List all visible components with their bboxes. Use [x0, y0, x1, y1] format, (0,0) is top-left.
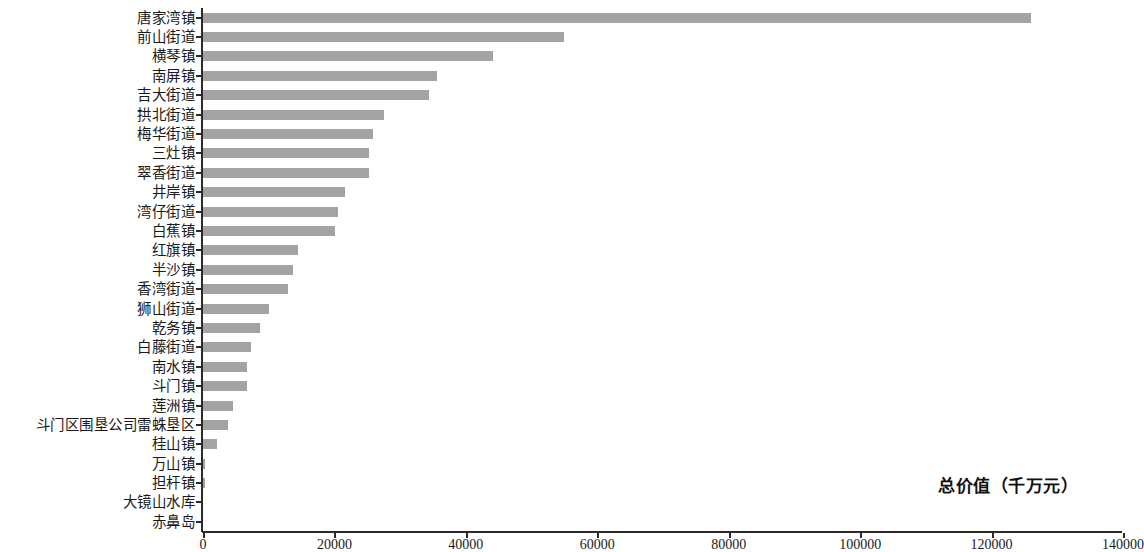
- x-axis-title: 总价值（千万元）: [938, 472, 1078, 497]
- chart-row: 三灶镇: [0, 144, 1143, 163]
- chart-row: 乾务镇: [0, 318, 1143, 337]
- chart-row: 白蕉镇: [0, 221, 1143, 240]
- y-axis-tick: [196, 230, 202, 232]
- category-label: 拱北街道: [137, 107, 195, 122]
- chart-row: 斗门区围垦公司雷蛛垦区: [0, 415, 1143, 434]
- x-tick-label: 140000: [1102, 537, 1144, 552]
- bar: [203, 245, 298, 255]
- category-label: 吉大街道: [137, 88, 195, 103]
- y-axis-tick: [196, 114, 202, 116]
- chart-row: 斗门镇: [0, 376, 1143, 395]
- x-tick-label: 40000: [448, 537, 483, 552]
- x-tick-label: 0: [200, 537, 207, 552]
- bar: [203, 342, 251, 352]
- category-label: 万山镇: [152, 456, 196, 471]
- category-label: 赤鼻岛: [152, 515, 196, 530]
- y-axis-tick: [196, 366, 202, 368]
- y-axis-tick: [196, 288, 202, 290]
- y-axis-tick: [196, 269, 202, 271]
- x-tick-label: 60000: [580, 537, 615, 552]
- bar: [203, 71, 437, 81]
- category-label: 莲洲镇: [152, 398, 196, 413]
- chart-row: 半沙镇: [0, 260, 1143, 279]
- bar: [203, 110, 384, 120]
- bar: [203, 362, 247, 372]
- y-axis-tick: [196, 17, 202, 19]
- y-axis-tick: [196, 327, 202, 329]
- x-tick-label: 100000: [839, 537, 881, 552]
- chart-row: 梅华街道: [0, 124, 1143, 143]
- category-label: 白蕉镇: [152, 224, 196, 239]
- category-label: 梅华街道: [137, 127, 195, 142]
- bar: [203, 168, 369, 178]
- y-axis-tick: [196, 75, 202, 77]
- bar: [203, 148, 369, 158]
- category-label: 湾仔街道: [137, 204, 195, 219]
- category-label: 狮山街道: [137, 301, 195, 316]
- y-axis-tick: [196, 385, 202, 387]
- category-label: 大镜山水库: [123, 495, 196, 510]
- bar: [203, 207, 338, 217]
- chart-row: 莲洲镇: [0, 396, 1143, 415]
- category-label: 前山街道: [137, 30, 195, 45]
- chart-row: 吉大街道: [0, 86, 1143, 105]
- y-axis-tick: [196, 94, 202, 96]
- category-label: 横琴镇: [152, 49, 196, 64]
- category-label: 半沙镇: [152, 263, 196, 278]
- bar: [203, 323, 260, 333]
- y-axis-tick: [196, 152, 202, 154]
- bar: [203, 459, 205, 469]
- category-label: 斗门区围垦公司雷蛛垦区: [36, 418, 196, 433]
- x-tick-label: 120000: [971, 537, 1013, 552]
- chart-rows: 唐家湾镇前山街道横琴镇南屏镇吉大街道拱北街道梅华街道三灶镇翠香街道井岸镇湾仔街道…: [0, 8, 1143, 532]
- y-axis-tick: [196, 172, 202, 174]
- bar: [203, 187, 345, 197]
- bar: [203, 401, 233, 411]
- y-axis-tick: [196, 133, 202, 135]
- bar: [203, 32, 564, 42]
- chart-row: 赤鼻岛: [0, 512, 1143, 531]
- y-axis-tick: [196, 521, 202, 523]
- bar: [203, 420, 228, 430]
- chart-row: 白藤街道: [0, 338, 1143, 357]
- chart-row: 湾仔街道: [0, 202, 1143, 221]
- chart-row: 横琴镇: [0, 47, 1143, 66]
- x-tick-label: 20000: [317, 537, 352, 552]
- chart-row: 桂山镇: [0, 435, 1143, 454]
- bar: [203, 51, 493, 61]
- y-axis-tick: [196, 482, 202, 484]
- category-label: 南水镇: [152, 359, 196, 374]
- chart-row: 前山街道: [0, 27, 1143, 46]
- chart-row: 香湾街道: [0, 279, 1143, 298]
- x-tick-label: 80000: [711, 537, 746, 552]
- category-label: 白藤街道: [137, 340, 195, 355]
- y-axis-tick: [196, 191, 202, 193]
- y-axis-tick: [196, 249, 202, 251]
- category-label: 唐家湾镇: [137, 10, 195, 25]
- x-axis-ticks: 020000400006000080000100000120000140000: [0, 533, 1143, 552]
- bar: [203, 13, 1031, 23]
- y-axis-tick: [196, 55, 202, 57]
- chart-row: 红旗镇: [0, 241, 1143, 260]
- y-axis-tick: [196, 211, 202, 213]
- y-axis-tick: [196, 36, 202, 38]
- category-label: 井岸镇: [152, 185, 196, 200]
- chart-row: 唐家湾镇: [0, 8, 1143, 27]
- y-axis-tick: [196, 346, 202, 348]
- bar: [203, 304, 269, 314]
- chart-row: 翠香街道: [0, 163, 1143, 182]
- chart-row: 南屏镇: [0, 66, 1143, 85]
- bar: [203, 478, 205, 488]
- y-axis-tick: [196, 443, 202, 445]
- chart-row: 拱北街道: [0, 105, 1143, 124]
- chart-row: 南水镇: [0, 357, 1143, 376]
- category-label: 三灶镇: [152, 146, 196, 161]
- y-axis-tick: [196, 308, 202, 310]
- y-axis-tick: [196, 424, 202, 426]
- category-label: 南屏镇: [152, 69, 196, 84]
- category-label: 斗门镇: [152, 379, 196, 394]
- chart-row: 井岸镇: [0, 183, 1143, 202]
- category-label: 乾务镇: [152, 321, 196, 336]
- y-axis-tick: [196, 405, 202, 407]
